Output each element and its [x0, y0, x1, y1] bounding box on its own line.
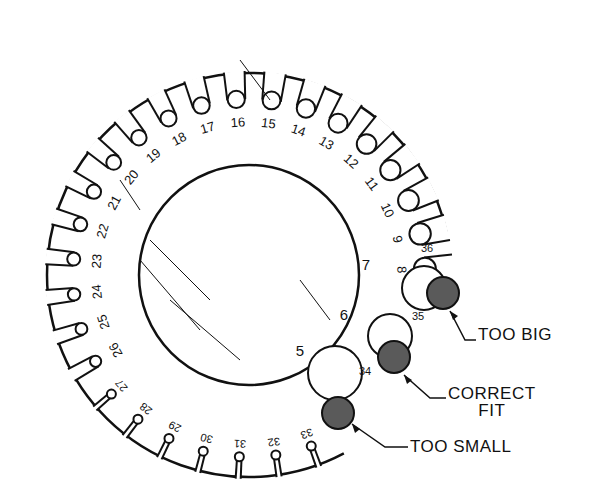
callout-correct-fit-line1: CORRECT [448, 385, 536, 402]
gauge-label: 29 [167, 419, 183, 435]
gauge-label: 34 [359, 365, 371, 377]
gauge-label: 21 [104, 193, 124, 213]
gauge-label: 18 [169, 129, 189, 149]
gauge-label: 19 [143, 145, 164, 166]
gauge-label: 35 [412, 310, 424, 322]
callout-correct-fit: CORRECT FIT [448, 385, 536, 419]
callout-too-small: TOO SMALL [410, 438, 512, 455]
gauge-label: 31 [234, 438, 247, 451]
gauge-label: 12 [341, 151, 362, 172]
gauge-label: 17 [199, 118, 217, 136]
gauge-label: 25 [94, 313, 113, 331]
gauge-label: 30 [199, 431, 214, 446]
callout-too-big: TOO BIG [478, 326, 552, 343]
gauge-label: 32 [267, 435, 281, 449]
gauge-label: 8 [394, 266, 409, 274]
gauge-label: 7 [362, 256, 370, 273]
gauge-label: 13 [316, 133, 336, 153]
gauge-label: 6 [340, 306, 348, 323]
gauge-label: 15 [260, 115, 276, 132]
gauge-label: 5 [296, 342, 304, 359]
gauge-label: 33 [299, 426, 315, 441]
callout-correct-fit-line2: FIT [448, 402, 536, 419]
gauge-label: 14 [289, 121, 308, 140]
gauge-label: 22 [93, 222, 112, 240]
gauge-label: 20 [121, 167, 142, 188]
gauge-label: 24 [89, 284, 106, 300]
gauge-label: 11 [362, 174, 382, 194]
gauge-label: 23 [88, 253, 104, 269]
gauge-label: 36 [421, 242, 433, 254]
gauge-label: 26 [106, 340, 126, 360]
gauge-label: 9 [390, 234, 406, 245]
gauge-label: 16 [230, 114, 246, 130]
gauge-label: 10 [378, 200, 398, 219]
